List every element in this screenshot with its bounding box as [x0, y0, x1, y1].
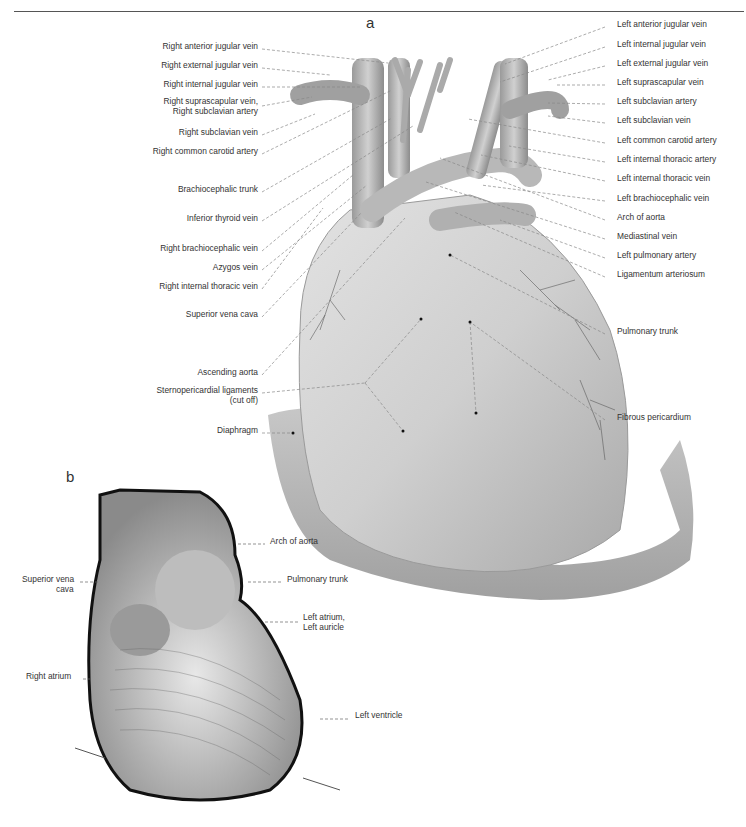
label-brachiocephalic-trunk: Brachiocephalic trunk	[178, 184, 258, 194]
label-ligamentum-arteriosum: Ligamentum arteriosum	[617, 269, 705, 279]
label-left-subclavian-artery: Left subclavian artery	[617, 96, 697, 106]
label-fibrous-pericardium: Fibrous pericardium	[617, 412, 691, 422]
label-right-anterior-jugular-vein: Right anterior jugular vein	[163, 41, 258, 51]
label-left-pulmonary-artery: Left pulmonary artery	[617, 250, 696, 260]
label-pulmonary-trunk: Pulmonary trunk	[617, 326, 678, 336]
label-right-internal-thoracic-vein: Right internal thoracic vein	[159, 281, 258, 291]
label-b-arch-of-aorta: Arch of aorta	[270, 536, 318, 546]
label-left-anterior-jugular-vein: Left anterior jugular vein	[617, 19, 707, 29]
label-right-common-carotid-artery: Right common carotid artery	[153, 146, 258, 156]
label-left-internal-jugular-vein: Left internal jugular vein	[617, 39, 706, 49]
label-left-external-jugular-vein: Left external jugular vein	[617, 58, 708, 68]
label-right-internal-jugular-vein: Right internal jugular vein	[163, 79, 258, 89]
label-diaphragm: Diaphragm	[217, 425, 258, 435]
label-right-subclavian-artery: Right subclavian artery	[173, 106, 258, 116]
label-left-brachiocephalic-vein: Left brachiocephalic vein	[617, 193, 709, 203]
label-arch-of-aorta: Arch of aorta	[617, 212, 665, 222]
label-left-internal-thoracic-artery: Left internal thoracic artery	[617, 154, 716, 164]
label-right-suprascapular-vein: Right suprascapular vein,	[163, 96, 258, 106]
label-b-left-atrium: Left atrium,	[303, 612, 345, 622]
label-b-right-atrium: Right atrium	[26, 671, 71, 681]
label-b-left-auricle: Left auricle	[303, 622, 344, 632]
label-left-internal-thoracic-vein: Left internal thoracic vein	[617, 173, 710, 183]
label-left-subclavian-vein: Left subclavian vein	[617, 115, 691, 125]
label-right-brachiocephalic-vein: Right brachiocephalic vein	[160, 243, 258, 253]
label-left-suprascapular-vein: Left suprascapular vein	[617, 77, 704, 87]
label-cut-off-note: (cut off)	[230, 395, 258, 405]
label-ascending-aorta: Ascending aorta	[197, 367, 258, 377]
label-right-external-jugular-vein: Right external jugular vein	[161, 60, 258, 70]
label-azygos-vein: Azygos vein	[213, 262, 258, 272]
label-sternopericardial-ligaments: Sternopericardial ligaments	[157, 385, 258, 395]
label-superior-vena-cava: Superior vena cava	[186, 309, 258, 319]
label-inferior-thyroid-vein: Inferior thyroid vein	[187, 213, 258, 223]
label-b-superior-vena-cava: Superior vena	[22, 574, 74, 584]
label-mediastinal-vein: Mediastinal vein	[617, 231, 677, 241]
label-left-common-carotid-artery: Left common carotid artery	[617, 135, 717, 145]
label-b-pulmonary-trunk: Pulmonary trunk	[287, 574, 348, 584]
label-b-left-ventricle: Left ventricle	[355, 710, 402, 720]
label-right-subclavian-vein: Right subclavian vein	[179, 127, 258, 137]
label-b-cava: cava	[56, 584, 74, 594]
